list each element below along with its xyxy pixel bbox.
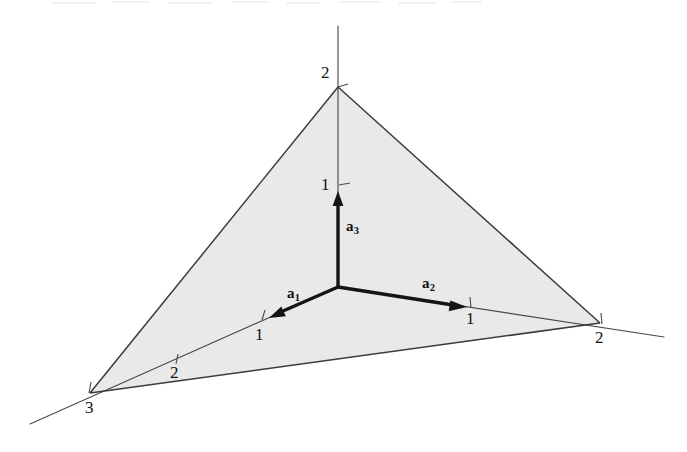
lattice-plane-shaded-region — [90, 87, 600, 393]
tick-label-a2-2: 2 — [595, 329, 604, 346]
figure-canvas: 1 2 a3 a1 1 2 3 a2 1 2 — [0, 0, 687, 452]
vector-label-a1-subscript: 1 — [295, 292, 300, 303]
vector-label-a3-symbol: a — [346, 218, 354, 234]
vector-label-a2-symbol: a — [422, 275, 430, 291]
vector-label-a1-symbol: a — [287, 285, 295, 301]
tick-label-a1-1: 1 — [255, 326, 264, 343]
tick-a2-2 — [601, 313, 602, 324]
tick-label-a3-1: 1 — [321, 176, 330, 193]
vector-label-a2-subscript: 2 — [430, 282, 435, 293]
vector-label-a3-subscript: 3 — [354, 225, 359, 236]
tick-label-a1-3: 3 — [85, 399, 94, 416]
vector-label-a1: a1 — [287, 286, 300, 301]
tick-a3-2 — [338, 84, 348, 87]
tick-label-a2-1: 1 — [466, 310, 475, 327]
tick-label-a3-2: 2 — [321, 64, 330, 81]
vector-label-a2: a2 — [422, 276, 435, 291]
lattice-plane-diagram — [0, 0, 687, 452]
scan-artifact-group — [52, 2, 482, 3]
vector-label-a3: a3 — [346, 219, 359, 234]
tick-label-a1-2: 2 — [170, 364, 179, 381]
